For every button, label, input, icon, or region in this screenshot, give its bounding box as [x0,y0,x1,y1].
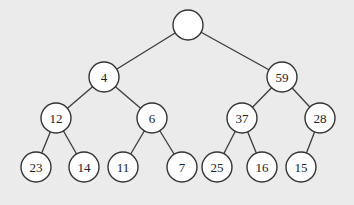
node-label: 37 [236,111,250,126]
tree-node: 11 [108,152,138,182]
node-label: 4 [101,70,108,85]
node-label: 14 [78,160,92,175]
tree-node: 25 [202,152,232,182]
tree-node: 4 [89,62,119,92]
tree-node: 6 [137,103,167,133]
node-label: 12 [50,111,63,126]
tree-node: 14 [69,152,99,182]
node-label: 59 [276,70,289,85]
node-label: 23 [30,160,43,175]
tree-node: 23 [21,152,51,182]
tree-edges [36,25,320,167]
tree-nodes: 45912637282314117251615 [21,10,335,182]
tree-node [173,10,203,40]
tree-node: 16 [247,152,277,182]
node-label: 7 [179,160,186,175]
node-label: 25 [211,160,224,175]
node-circle [173,10,203,40]
binary-tree-diagram: 45912637282314117251615 [0,0,354,205]
node-label: 16 [256,160,270,175]
tree-node: 7 [167,152,197,182]
tree-node: 37 [227,103,257,133]
tree-node: 59 [267,62,297,92]
tree-node: 15 [286,152,316,182]
node-label: 15 [295,160,308,175]
node-label: 6 [149,111,156,126]
tree-node: 28 [305,103,335,133]
node-label: 11 [117,160,130,175]
tree-node: 12 [41,103,71,133]
node-label: 28 [314,111,327,126]
tree-edge [188,25,282,77]
